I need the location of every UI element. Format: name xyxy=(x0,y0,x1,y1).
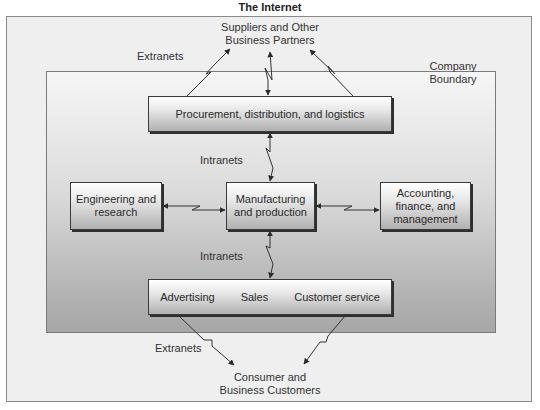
extranet-arrow-bottom-left xyxy=(179,316,234,365)
extranet-arrow-bottom-right xyxy=(304,316,345,364)
connection-lines xyxy=(0,0,540,410)
intranet-arrow-bottom xyxy=(266,231,273,278)
extranet-arrow-top-left xyxy=(187,49,230,96)
engineering-manufacturing-arrow xyxy=(163,206,225,210)
manufacturing-accounting-arrow xyxy=(316,206,379,210)
suppliers-procurement-arrow xyxy=(265,52,272,95)
extranet-arrow-top-right xyxy=(310,50,353,96)
intranet-arrow-top xyxy=(266,133,273,181)
